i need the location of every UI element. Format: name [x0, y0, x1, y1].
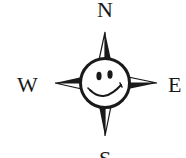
north-label: N — [97, 0, 113, 21]
south-spike-icon — [99, 106, 111, 136]
smiley-face-icon — [81, 59, 130, 108]
west-label: W — [17, 74, 38, 96]
west-spike-icon — [55, 77, 82, 89]
north-spike-icon — [99, 32, 111, 60]
east-label: E — [168, 74, 181, 96]
east-spike-icon — [128, 77, 157, 89]
south-label: S — [99, 148, 111, 158]
